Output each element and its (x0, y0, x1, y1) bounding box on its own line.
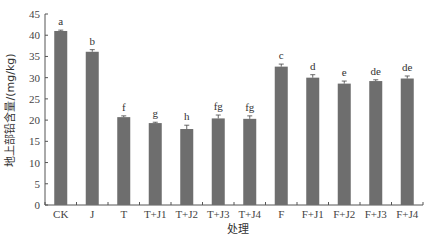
x-tick-label: T+J3 (207, 208, 230, 220)
x-tick-label: T+J2 (175, 208, 198, 220)
significance-letter: c (279, 49, 284, 61)
x-tick-label: F+J2 (333, 208, 355, 220)
y-tick-label: 5 (35, 178, 41, 190)
significance-letter: de (402, 61, 413, 73)
bars: abfghfgfgcdedede (54, 15, 414, 205)
significance-letter: d (310, 60, 316, 72)
bar (149, 123, 162, 205)
y-axis-title: 地上部铅含量/(mg/kg) (3, 53, 17, 166)
bar (306, 78, 319, 205)
x-tick-label: T (120, 208, 127, 220)
bar (243, 119, 256, 205)
bar-chart: 051015202530354045 CKJTT+J1T+J2T+J3T+J4F… (0, 0, 437, 243)
y-tick-label: 0 (35, 199, 41, 211)
x-tick-label: CK (53, 208, 68, 220)
bar (54, 31, 67, 205)
x-axis: CKJTT+J1T+J2T+J3T+J4FF+J1F+J2F+J3F+J4 (45, 202, 423, 220)
x-tick-label: T+J1 (144, 208, 167, 220)
y-tick-label: 35 (29, 50, 41, 62)
y-tick-label: 30 (29, 72, 41, 84)
x-axis-title: 处理 (227, 223, 249, 236)
bar (338, 84, 351, 205)
y-axis: 051015202530354045 (29, 8, 48, 211)
significance-letter: a (58, 15, 63, 27)
y-tick-label: 40 (29, 29, 41, 41)
significance-letter: h (184, 110, 190, 122)
y-tick-label: 10 (29, 157, 41, 169)
y-tick-label: 20 (29, 114, 41, 126)
x-tick-label: F+J3 (365, 208, 388, 220)
bar (369, 81, 382, 205)
bar (275, 67, 288, 205)
x-tick-label: F+J4 (396, 208, 419, 220)
bar (212, 118, 225, 205)
bar (401, 79, 414, 205)
y-tick-label: 25 (29, 93, 41, 105)
y-tick-label: 45 (29, 8, 41, 20)
x-tick-label: J (90, 208, 95, 220)
significance-letter: e (342, 66, 347, 78)
bar (180, 129, 193, 205)
significance-letter: fg (245, 101, 255, 113)
significance-letter: f (122, 101, 126, 113)
x-tick-label: T+J4 (238, 208, 261, 220)
bar (117, 117, 130, 205)
significance-letter: fg (214, 100, 224, 112)
significance-letter: b (90, 35, 96, 47)
x-tick-label: F+J1 (302, 208, 324, 220)
x-tick-label: F (278, 208, 284, 220)
significance-letter: g (153, 107, 159, 119)
bar (86, 52, 99, 205)
y-tick-label: 15 (29, 135, 41, 147)
significance-letter: de (371, 65, 382, 77)
